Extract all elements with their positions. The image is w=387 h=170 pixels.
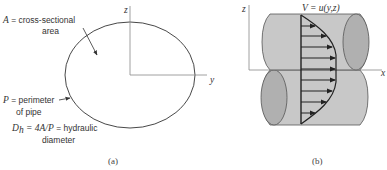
perimeter-label-line1: P = perimeter — [2, 95, 55, 105]
perimeter-label-line2: of pipe — [16, 107, 42, 117]
hydraulic-label-line1: Dh = 4A/P = hydraulic — [11, 123, 98, 135]
area-label-line1: A = cross-sectional — [2, 15, 75, 25]
z-axis-label-b: z — [241, 4, 246, 14]
area-label-line2: area — [42, 26, 59, 36]
caption-a: (a) — [108, 156, 118, 166]
lower-pipe-end — [261, 70, 287, 125]
x-axis-label-b: x — [380, 68, 386, 78]
figure-canvas: z y A = cross-sectional area P = perimet… — [0, 0, 387, 170]
z-axis-label: z — [123, 5, 128, 15]
velocity-label: V = u(y,z) — [302, 3, 340, 14]
upper-pipe — [262, 14, 369, 70]
area-pointer-arrow — [83, 28, 97, 55]
y-axis-label: y — [209, 75, 215, 85]
figure-b: z x V = u(y,z) (b) — [241, 3, 386, 166]
figure-a: z y A = cross-sectional area P = perimet… — [2, 5, 215, 166]
lower-pipe — [261, 70, 368, 125]
upper-pipe-end — [343, 14, 369, 70]
caption-b: (b) — [312, 156, 323, 166]
perimeter-pointer-arrow — [59, 98, 70, 100]
hydraulic-label-line2: diameter — [42, 135, 75, 145]
